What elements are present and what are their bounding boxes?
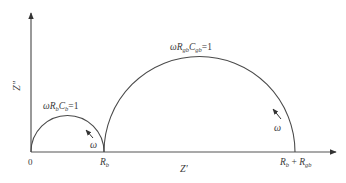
gb-condition-label: ωRgbCgb=1 — [170, 42, 212, 53]
bulk-condition-label: ωRbCb=1 — [43, 101, 79, 112]
bulk-omega-arrow — [86, 130, 93, 138]
y-axis-label: Z″ — [11, 80, 22, 91]
gb-omega-label: ω — [274, 122, 281, 133]
impedance-diagram: Z″ Z′ 0 ωRbCb=1 ωRgbCgb=1 ω ω Rb Rb + Rg… — [0, 0, 346, 183]
origin-label: 0 — [28, 157, 33, 167]
rb-label: Rb — [99, 157, 110, 168]
bulk-omega-label: ω — [90, 139, 97, 150]
gb-omega-arrow — [273, 109, 281, 119]
grain-boundary-semicircle — [104, 57, 295, 153]
x-axis-label: Z′ — [180, 163, 189, 174]
rb-plus-rgb-label: Rb + Rgb — [279, 157, 312, 168]
